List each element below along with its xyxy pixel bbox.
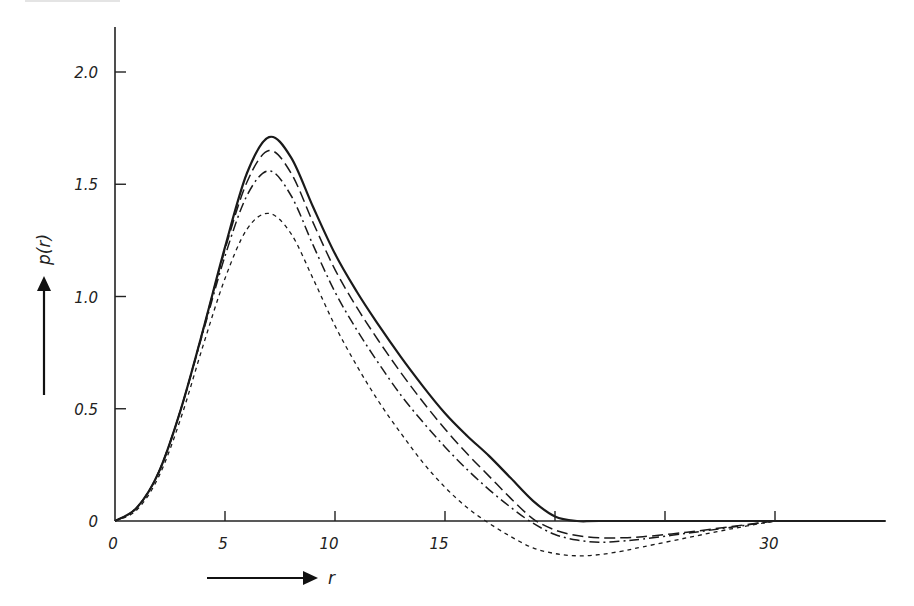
x-axis-title-group: r — [207, 568, 336, 588]
y-arrow-head-icon — [37, 276, 51, 291]
series-layer — [115, 137, 885, 556]
y-tick-label: 2.0 — [74, 64, 98, 82]
y-tick-label: 0.5 — [74, 401, 98, 419]
x-tick-label: 10 — [319, 535, 338, 553]
x-axis-title: r — [328, 568, 336, 588]
x-tick-label: 30 — [759, 535, 778, 553]
y-axis-title-group: p(r) — [34, 234, 54, 395]
y-tick-label: 1.5 — [74, 176, 98, 194]
x-arrow-head-icon — [303, 571, 318, 585]
y-tick-label: 0 — [88, 513, 98, 531]
axes — [115, 27, 886, 521]
series-dash-dot — [115, 171, 775, 543]
x-tick-label: 0 — [108, 535, 118, 553]
series-solid — [115, 137, 885, 522]
pair-distribution-chart: 0510153000.51.01.52.0 r p(r) — [0, 0, 914, 606]
series-long-dashed — [115, 150, 775, 538]
y-tick-label: 1.0 — [74, 289, 98, 307]
y-axis-title: p(r) — [34, 234, 54, 266]
x-tick-label: 15 — [429, 535, 448, 553]
series-short-dashed — [115, 213, 775, 555]
x-tick-label: 5 — [218, 535, 228, 553]
ticks: 0510153000.51.01.52.0 — [74, 64, 778, 553]
